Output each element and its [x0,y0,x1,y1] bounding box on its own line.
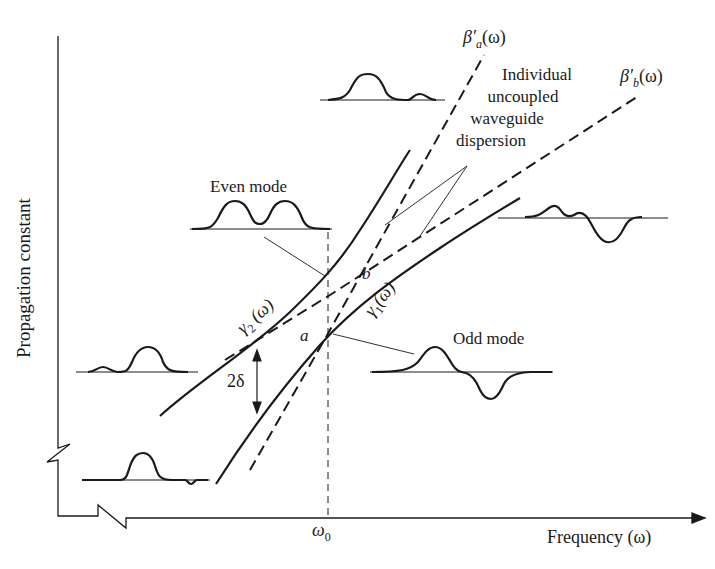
profile-odd-mode [370,347,553,399]
beta-a-dashed-line [250,55,484,470]
profile-even-mode [190,201,332,229]
uncoupled-label-line4: dispersion [441,132,541,149]
y-axis-label: Propagation constant [14,198,33,358]
x-tick-main: ω [312,520,325,540]
beta-a-symbol: β′ [463,27,476,47]
beta-b-label: β′b(ω) [620,67,663,89]
arrow-down-icon [253,402,261,413]
x-axis-arrow-icon [692,513,705,523]
odd-mode-label: Odd mode [453,330,524,347]
coupled-mode-curves [160,150,520,484]
x-tick-sub: 0 [325,530,331,544]
gap-label: 2δ [227,372,244,390]
x-tick-omega0: ω0 [312,521,331,543]
odd-mode-leader [333,334,414,354]
even-mode-leader [264,237,325,276]
leader-lines [264,166,467,354]
uncoupled-dispersion-lines [225,55,640,470]
arrow-up-icon [253,350,261,361]
beta-a-label: β′a(ω) [463,28,506,50]
beta-b-dashed-line [225,95,640,360]
profile-beta-a [320,74,445,100]
mode-profiles [76,74,668,484]
uncoupled-label-line1: Individual [487,66,587,83]
uncoupled-label-line2: uncoupled [473,88,573,105]
point-a-label: a [300,327,309,344]
gap-arrow [253,350,261,413]
uncoupled-label-line3: waveguide [457,110,557,127]
diagram-canvas [0,0,715,569]
even-mode-label: Even mode [210,178,287,195]
profile-beta-b [498,206,668,242]
point-b-label: b [362,265,371,282]
profile-left-lower [82,453,210,484]
profile-left-upper [76,347,198,372]
beta-b-symbol: β′ [620,66,633,86]
beta-a-argument: (ω) [482,27,506,47]
beta-b-argument: (ω) [639,66,663,86]
coupled-waveguide-dispersion-diagram: Propagation constant Frequency (ω) ω0 β′… [0,0,715,569]
uncoupled-leader-a [385,166,467,225]
x-axis-label: Frequency (ω) [547,528,651,546]
uncoupled-leader-b [420,166,467,236]
